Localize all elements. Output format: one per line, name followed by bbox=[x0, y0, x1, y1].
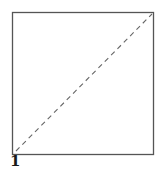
fold-diagram bbox=[0, 0, 166, 171]
step-number: 1 bbox=[10, 154, 20, 169]
